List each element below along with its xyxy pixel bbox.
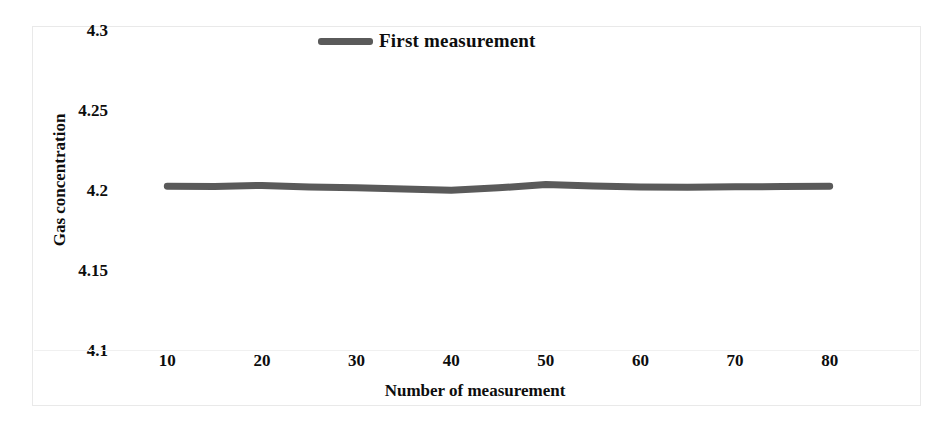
- x-tick-label: 70: [705, 352, 765, 369]
- x-tick-label: 80: [800, 352, 860, 369]
- figure-frame: [32, 26, 921, 406]
- x-tick-label: 40: [421, 352, 481, 369]
- x-axis-title: Number of measurement: [0, 381, 950, 401]
- y-tick-label: 4.25: [48, 102, 108, 119]
- x-tick-label: 30: [327, 352, 387, 369]
- x-tick-label: 60: [610, 352, 670, 369]
- legend-swatch-first-measurement: [318, 38, 373, 45]
- x-tick-label: 50: [516, 352, 576, 369]
- chart-legend: First measurement: [318, 30, 536, 52]
- x-tick-label: 10: [137, 352, 197, 369]
- x-axis-tick-labels: 1020304050607080: [0, 352, 950, 382]
- legend-label-first-measurement: First measurement: [379, 30, 536, 52]
- y-tick-label: 4.2: [48, 182, 108, 199]
- y-tick-label: 4.15: [48, 262, 108, 279]
- y-tick-label: 4.3: [48, 22, 108, 39]
- x-tick-label: 20: [232, 352, 292, 369]
- chart-figure: First measurement Gas concentration 4.14…: [0, 0, 950, 432]
